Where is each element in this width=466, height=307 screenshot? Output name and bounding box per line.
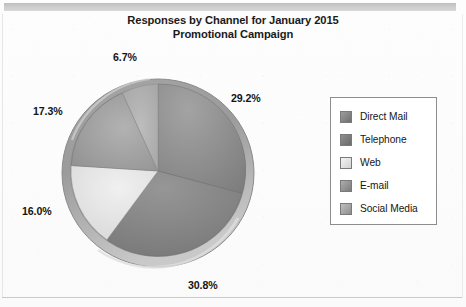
pie-label-social-media: 6.7% [113, 51, 137, 63]
pie-label-email: 17.3% [33, 105, 63, 117]
pie-label-telephone: 30.8% [188, 279, 218, 291]
legend-label-social-media: Social Media [360, 203, 418, 214]
legend-swatch-telephone [340, 134, 352, 146]
pie-label-web: 16.0% [22, 205, 52, 217]
pie-label-direct-mail: 29.2% [231, 92, 261, 104]
legend-item-social-media[interactable]: Social Media [331, 197, 436, 220]
legend-item-email[interactable]: E-mail [331, 174, 436, 197]
pie-chart [0, 0, 300, 307]
chart-legend: Direct Mail Telephone Web E-mail Social … [330, 97, 437, 225]
legend-label-direct-mail: Direct Mail [360, 111, 408, 122]
legend-swatch-web [340, 157, 352, 169]
legend-swatch-email [340, 180, 352, 192]
legend-item-direct-mail[interactable]: Direct Mail [331, 105, 436, 128]
legend-label-email: E-mail [360, 180, 389, 191]
legend-swatch-direct-mail [340, 111, 352, 123]
pie-chart-svg [0, 0, 300, 307]
legend-item-telephone[interactable]: Telephone [331, 128, 436, 151]
legend-label-telephone: Telephone [360, 134, 407, 145]
legend-item-web[interactable]: Web [331, 151, 436, 174]
legend-swatch-social-media [340, 203, 352, 215]
chart-frame-right [462, 14, 463, 298]
legend-label-web: Web [360, 157, 381, 168]
